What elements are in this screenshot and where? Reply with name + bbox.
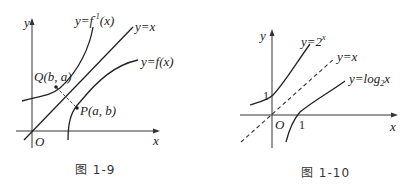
y-axis-arrow-icon [270, 29, 275, 36]
origin-label: O [275, 118, 284, 131]
x-axis-label: x [153, 134, 159, 147]
label-logarithm: y=log2x [349, 72, 390, 88]
origin-label: O [35, 135, 44, 148]
point-p [75, 106, 79, 110]
figure-1-9: y x O y=f-1(x) y=x y=f(x) Q(b, a) P(a, b… [0, 0, 205, 188]
curve-function [68, 60, 138, 140]
x-intercept-tick-label: 1 [299, 119, 305, 131]
curve-inverse-function [22, 27, 93, 101]
figure-1-10: y x O 1 1 y=2x y=x y=log2x 图 1-10 [205, 0, 409, 188]
curve-logarithm [286, 81, 345, 142]
curve-exponential [250, 44, 310, 105]
label-exponential: y=2x [301, 34, 326, 48]
figure-caption: 图 1-9 [75, 160, 115, 177]
label-inverse-function: y=f-1(x) [75, 13, 114, 27]
label-y-equals-x: y=x [135, 20, 155, 33]
x-axis-label: x [390, 120, 396, 133]
y-axis-arrow-icon [30, 18, 35, 25]
y-axis-label: y [24, 16, 30, 29]
point-q [54, 85, 58, 89]
label-function: y=f(x) [141, 55, 174, 68]
label-point-q: Q(b, a) [34, 70, 72, 83]
x-axis-arrow-icon [391, 113, 398, 118]
segment-pq-dashed [56, 87, 77, 108]
figure-1-10-graph [205, 0, 409, 188]
figure-caption: 图 1-10 [301, 163, 350, 180]
label-y-equals-x: y=x [337, 50, 357, 63]
y-axis-label: y [260, 29, 266, 42]
y-intercept-tick-label: 1 [263, 90, 269, 102]
line-y-equals-x-dashed [241, 58, 335, 142]
label-point-p: P(a, b) [80, 104, 116, 117]
